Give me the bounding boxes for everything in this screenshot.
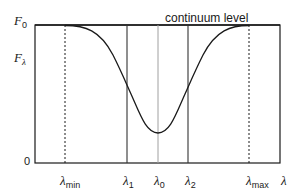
x-label-lambda-min: λmin <box>60 174 80 187</box>
x-label-lambda-max-sub: max <box>252 180 269 190</box>
x-label-lambda-2-symbol: λ <box>185 173 191 188</box>
y-label-f0: F0 <box>14 14 27 27</box>
x-label-lambda-0: λ0 <box>154 174 165 187</box>
absorption-line-diagram <box>0 0 299 192</box>
y-label-flambda-sub: λ <box>22 57 26 67</box>
x-label-lambda-2-sub: 2 <box>191 180 196 190</box>
y-label-f0-symbol: F <box>14 13 22 28</box>
y-label-flambda-symbol: F <box>14 50 22 65</box>
x-label-lambda-max: λmax <box>246 174 269 187</box>
y-label-flambda: Fλ <box>14 51 26 64</box>
x-axis-lambda-symbol: λ <box>281 173 287 188</box>
y-label-f0-sub: 0 <box>22 20 27 30</box>
x-label-lambda-min-sub: min <box>66 180 81 190</box>
line-profile-curve <box>65 26 249 134</box>
x-label-lambda-1-sub: 1 <box>129 180 134 190</box>
x-axis-lambda-label: λ <box>281 174 287 187</box>
x-label-lambda-1: λ1 <box>123 174 134 187</box>
y-label-zero: 0 <box>24 156 30 167</box>
continuum-level-label: continuum level <box>165 12 248 24</box>
x-label-lambda-0-sub: 0 <box>160 180 165 190</box>
x-label-lambda-min-symbol: λ <box>60 173 66 188</box>
x-label-lambda-1-symbol: λ <box>123 173 129 188</box>
x-label-lambda-max-symbol: λ <box>246 173 252 188</box>
x-label-lambda-0-symbol: λ <box>154 173 160 188</box>
x-label-lambda-2: λ2 <box>185 174 196 187</box>
